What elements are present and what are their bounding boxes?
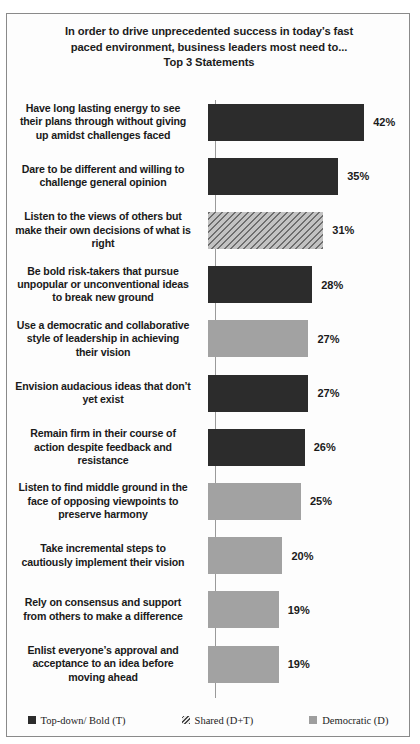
bar-track: 27% [207,366,411,420]
chart-title: In order to drive unprecedented success … [29,24,389,71]
bar-category-label: Dare to be different and willing to chal… [7,163,207,190]
legend-item-topdown[interactable]: Top-down/ Bold (T) [28,715,126,726]
bar-track: 27% [207,312,411,366]
bar-track: 19% [207,583,411,637]
chart-title-line-1: In order to drive unprecedented success … [29,24,389,40]
bar-track: 35% [207,149,411,203]
bar[interactable] [208,104,364,141]
bar[interactable] [208,375,308,412]
bar-track: 25% [207,474,411,528]
bar-track: 28% [207,258,411,312]
bar-row: Enlist everyone’s approval and acceptanc… [7,637,411,691]
bar-value-label: 19% [288,658,310,670]
bar[interactable] [208,591,279,628]
bar-value-label: 27% [317,387,339,399]
legend-item-shared[interactable]: Shared (D+T) [182,715,254,726]
bar-value-label: 42% [373,116,395,128]
bar-category-label: Envision audacious ideas that don’t yet … [7,380,207,407]
bar-track: 26% [207,420,411,474]
plot-area: Have long lasting energy to see their pl… [7,88,411,688]
bar-value-label: 19% [288,604,310,616]
bar-row: Listen to find middle ground in the face… [7,474,411,528]
bar-category-label: Use a democratic and collaborative style… [7,319,207,359]
bar-track: 20% [207,529,411,583]
legend-item-democratic[interactable]: Democratic (D) [309,715,388,726]
bar-value-label: 28% [321,279,343,291]
bar-row: Rely on consensus and support from other… [7,583,411,637]
chart-legend: Top-down/ Bold (T)Shared (D+T)Democratic… [6,709,410,731]
legend-label: Top-down/ Bold (T) [41,715,126,726]
bar[interactable] [208,158,338,195]
bar-category-label: Remain firm in their course of action de… [7,427,207,467]
bar-row: Use a democratic and collaborative style… [7,312,411,366]
bar[interactable] [208,429,305,466]
bar-row: Be bold risk-takers that pursue unpopula… [7,258,411,312]
legend-swatch-icon [182,716,190,724]
bar-category-label: Take incremental steps to cautiously imp… [7,542,207,569]
bar-value-label: 31% [332,224,354,236]
bar-category-label: Be bold risk-takers that pursue unpopula… [7,265,207,305]
bar[interactable] [208,320,308,357]
bar-value-label: 26% [314,441,336,453]
bar-row: Dare to be different and willing to chal… [7,149,411,203]
bar[interactable] [208,537,282,574]
bar-row: Remain firm in their course of action de… [7,420,411,474]
bar[interactable] [208,212,323,249]
bar[interactable] [208,646,279,683]
bar-track: 42% [207,95,411,149]
bar-category-label: Listen to the views of others but make t… [7,210,207,250]
bar-row: Envision audacious ideas that don’t yet … [7,366,411,420]
legend-swatch-icon [309,716,317,724]
bar-value-label: 20% [291,550,313,562]
chart-title-line-2: paced environment, business leaders most… [29,40,389,56]
bar-category-label: Listen to find middle ground in the face… [7,481,207,521]
legend-swatch-icon [28,716,36,724]
chart-title-line-3: Top 3 Statements [29,55,389,71]
bar-row: Take incremental steps to cautiously imp… [7,529,411,583]
bar-value-label: 25% [310,495,332,507]
bar[interactable] [208,266,312,303]
bar-track: 31% [207,203,411,257]
bar-track: 19% [207,637,411,691]
legend-label: Democratic (D) [322,715,388,726]
bar[interactable] [208,483,301,520]
bar-value-label: 35% [347,170,369,182]
bar-category-label: Enlist everyone’s approval and acceptanc… [7,644,207,684]
chart-frame: In order to drive unprecedented success … [6,13,410,737]
bar-row: Listen to the views of others but make t… [7,203,411,257]
bar-category-label: Have long lasting energy to see their pl… [7,102,207,142]
bar-value-label: 27% [317,333,339,345]
bar-category-label: Rely on consensus and support from other… [7,596,207,623]
legend-label: Shared (D+T) [195,715,254,726]
bar-row: Have long lasting energy to see their pl… [7,95,411,149]
